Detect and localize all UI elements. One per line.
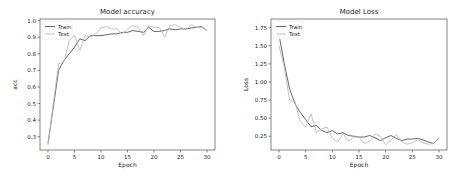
y-tick-label: 1.75 [255,25,268,31]
series-line-train [279,35,439,144]
x-tick-label: 20 [382,154,389,160]
x-axis-label: Epoch [350,161,369,169]
y-tick-label: 1.25 [255,61,268,67]
x-tick-label: 5 [304,154,308,160]
y-tick-label: 0.25 [255,133,268,139]
y-tick-label: 0.50 [255,115,268,121]
loss-chart: Model Loss0510152025300.250.500.751.001.… [0,0,469,176]
y-tick-label: 0.75 [255,97,268,103]
x-tick-label: 30 [436,154,443,160]
x-tick-label: 0 [277,154,281,160]
x-tick-label: 15 [356,154,363,160]
y-axis-label: Loss [242,78,249,91]
x-tick-label: 25 [409,154,416,160]
series-line-test [279,46,439,145]
chart-title: Model Loss [340,8,379,16]
y-tick-label: 1.00 [255,79,268,85]
legend: TrainTest [273,21,303,39]
y-tick-label: 1.50 [255,43,268,49]
legend-label-test: Test [288,31,301,37]
x-tick-label: 10 [329,154,336,160]
legend-label-train: Train [288,24,303,30]
